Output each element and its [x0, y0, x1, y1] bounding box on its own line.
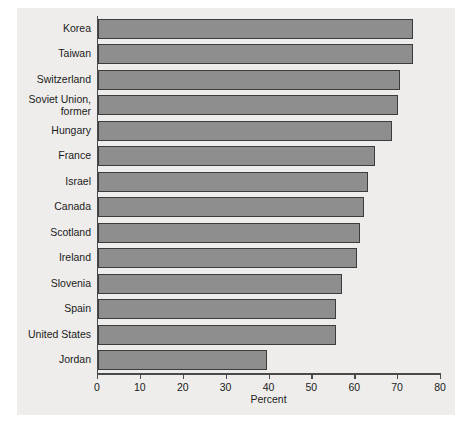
category-label: Israel [65, 176, 91, 188]
bar-row: Slovenia [98, 274, 441, 294]
bar-row: Canada [98, 197, 441, 217]
plot-area: KoreaTaiwanSwitzerlandSoviet Union, form… [97, 16, 441, 373]
bar[interactable] [98, 146, 375, 166]
x-axis-tick-label: 20 [177, 381, 189, 393]
category-label: Jordan [59, 354, 91, 366]
bar-row: Israel [98, 172, 441, 192]
bar-row: Jordan [98, 350, 441, 370]
bar[interactable] [98, 299, 336, 319]
bar[interactable] [98, 197, 364, 217]
x-axis-tick [440, 373, 441, 379]
x-axis-title: Percent [97, 393, 440, 405]
bar-row: Ireland [98, 248, 441, 268]
category-label: Spain [64, 303, 91, 315]
category-label: Soviet Union, former [29, 94, 91, 117]
x-axis-tick [397, 373, 398, 379]
x-axis-tick [311, 373, 312, 379]
category-label: Canada [54, 201, 91, 213]
bar-row: Taiwan [98, 44, 441, 64]
bar-row: Soviet Union, former [98, 95, 441, 115]
bar-row: Korea [98, 19, 441, 39]
bar[interactable] [98, 274, 342, 294]
category-label: United States [28, 329, 91, 341]
category-label: France [58, 150, 91, 162]
category-label: Ireland [59, 252, 91, 264]
x-axis-tick [354, 373, 355, 379]
x-axis-tick-label: 80 [434, 381, 446, 393]
bar-row: Switzerland [98, 70, 441, 90]
x-axis-tick [269, 373, 270, 379]
category-label: Switzerland [37, 74, 91, 86]
bar[interactable] [98, 19, 413, 39]
bar-row: France [98, 146, 441, 166]
bar-row: Hungary [98, 121, 441, 141]
bar[interactable] [98, 350, 267, 370]
x-axis-tick-label: 50 [306, 381, 318, 393]
bar-row: Spain [98, 299, 441, 319]
category-label: Korea [63, 23, 91, 35]
x-axis-tick-label: 60 [348, 381, 360, 393]
bar[interactable] [98, 121, 392, 141]
category-label: Scotland [50, 227, 91, 239]
category-label: Hungary [51, 125, 91, 137]
x-axis-tick [140, 373, 141, 379]
x-axis-tick [226, 373, 227, 379]
chart-figure: KoreaTaiwanSwitzerlandSoviet Union, form… [17, 8, 455, 415]
x-axis-tick-label: 0 [94, 381, 100, 393]
x-axis-tick-label: 40 [263, 381, 275, 393]
x-axis-tick-label: 30 [220, 381, 232, 393]
category-label: Slovenia [51, 278, 91, 290]
bar[interactable] [98, 70, 400, 90]
bar[interactable] [98, 325, 336, 345]
x-axis-tick-label: 70 [391, 381, 403, 393]
bar-row: Scotland [98, 223, 441, 243]
bar[interactable] [98, 95, 398, 115]
x-axis-tick-label: 10 [134, 381, 146, 393]
bar[interactable] [98, 248, 357, 268]
bar[interactable] [98, 223, 360, 243]
category-label: Taiwan [58, 48, 91, 60]
x-axis: 01020304050607080 [97, 373, 440, 375]
x-axis-tick [183, 373, 184, 379]
bar[interactable] [98, 44, 413, 64]
bar[interactable] [98, 172, 368, 192]
bar-row: United States [98, 325, 441, 345]
x-axis-tick [97, 373, 98, 379]
